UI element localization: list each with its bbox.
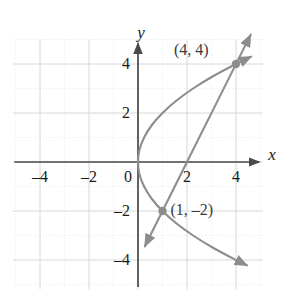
x-tick-label-2: 2 — [183, 169, 191, 185]
graph-figure: –4–202442–2–4xy(4, 4)(1, –2) — [0, 0, 290, 302]
x-tick-label--2: –2 — [81, 169, 97, 185]
x-tick-label--4: –4 — [32, 169, 48, 185]
y-tick-label-4: 4 — [122, 56, 130, 72]
intersection-point-lower-label: (1, –2) — [171, 202, 214, 218]
data-series — [138, 35, 251, 266]
intersection-point-lower-marker — [158, 207, 166, 215]
coordinate-plane — [0, 0, 290, 302]
y-axis-name: y — [137, 24, 145, 41]
intersection-point-upper-marker — [232, 60, 240, 68]
y-tick-label--2: –2 — [114, 203, 130, 219]
axes — [14, 43, 259, 287]
x-tick-label-4: 4 — [232, 169, 240, 185]
y-tick-label--4: –4 — [114, 252, 130, 268]
x-axis-name: x — [268, 146, 276, 163]
y-tick-label-2: 2 — [122, 105, 130, 121]
intersection-point-upper-label: (4, 4) — [174, 42, 209, 58]
curve-parabola — [138, 57, 251, 266]
x-tick-label-0: 0 — [124, 169, 132, 185]
